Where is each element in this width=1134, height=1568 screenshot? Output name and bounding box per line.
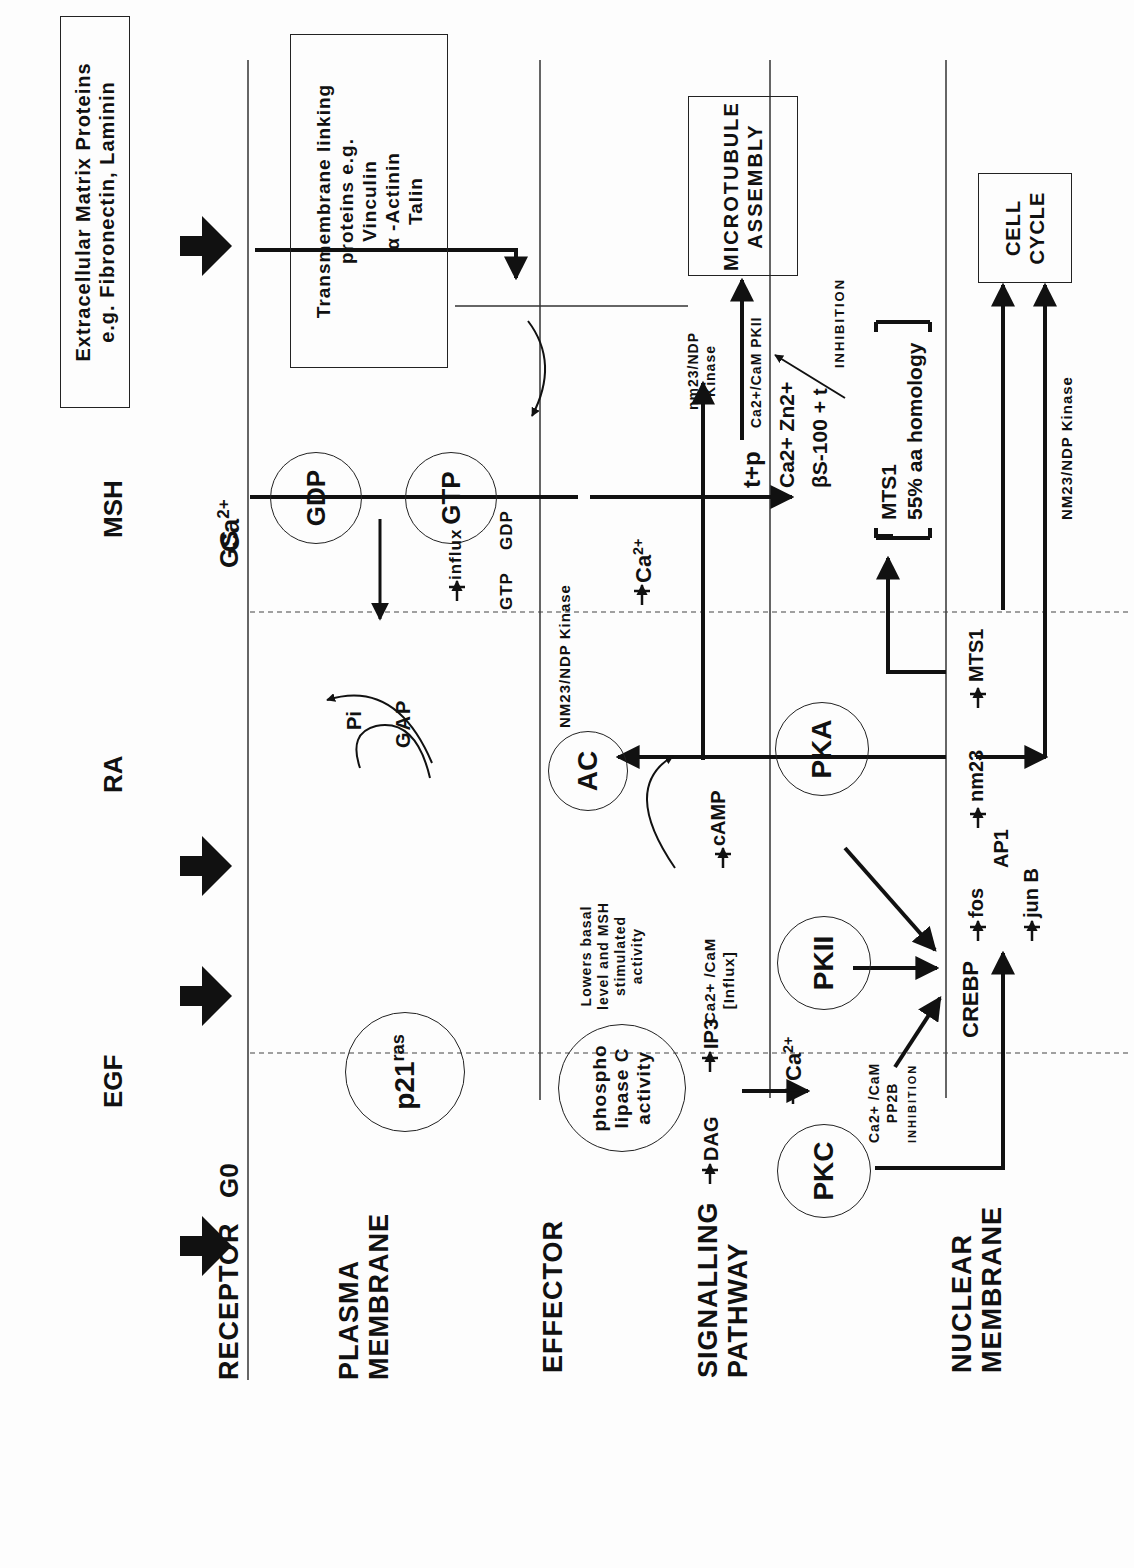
plc-line: activity xyxy=(633,1051,655,1124)
ca-superscript: 2+ xyxy=(214,499,233,518)
ca-effector-label: Ca2+ xyxy=(630,539,657,583)
signalling-diagram: RECEPTOR PLASMA MEMBRANE EFFECTOR SIGNAL… xyxy=(0,0,1134,1568)
microtubule-assembly-box: MICROTUBULE ASSEMBLY xyxy=(688,96,798,276)
ap1-label: AP1 xyxy=(990,829,1013,868)
nm23-ndp-kinase-nuclear-label: NM23/NDP Kinase xyxy=(1058,376,1075,520)
kinase-line: nm23/NDP xyxy=(685,332,702,410)
note-line: Lowers basal xyxy=(578,902,595,1010)
ca-signal-label: Ca2+ xyxy=(780,1037,807,1081)
mts1-label: MTS1 xyxy=(965,629,988,682)
row-label-line: SIGNALLING xyxy=(693,1202,723,1379)
s100-label: βS-100 + t xyxy=(808,388,832,488)
note-line: level and MSH xyxy=(595,902,612,1010)
kinase-line: Kinase xyxy=(702,332,719,410)
t-plus-p-label: t+p xyxy=(738,451,766,488)
g-protein-g0: G0 xyxy=(214,1163,245,1198)
row-label-plasma-membrane: PLASMA MEMBRANE xyxy=(334,1213,394,1380)
label-line: [Influx] xyxy=(719,938,738,1023)
transmembrane-line: Vinculin xyxy=(358,160,381,242)
microtubule-line: MICROTUBULE xyxy=(719,101,743,271)
row-label-receptor: RECEPTOR xyxy=(214,1222,244,1380)
row-label-effector: EFFECTOR xyxy=(538,1220,568,1373)
p21-ras-circle: p21ras xyxy=(345,1012,465,1132)
plc-line: phospho xyxy=(589,1044,611,1131)
g-protein-gs: GS xyxy=(214,530,245,568)
transmembrane-line: proteins e.g. xyxy=(335,138,358,264)
ecm-line: Extracellular Matrix Proteins xyxy=(71,62,95,361)
cell-cycle-line: CELL xyxy=(1001,200,1025,256)
inhibition-label-lower: INHIBITION xyxy=(906,1064,918,1143)
label-line: Ca2+ /CaM xyxy=(700,938,719,1023)
pka-circle: PKA xyxy=(775,702,869,796)
ip3-label: IP3 xyxy=(700,1019,723,1049)
nm23-kinase-small-label: nm23/NDP Kinase xyxy=(685,332,719,410)
pi-label: Pi xyxy=(343,711,366,730)
row-label-line: NUCLEAR xyxy=(947,1206,977,1373)
fos-label: fos xyxy=(965,888,988,918)
mts1-homology-label: MTS1 55% aa homology xyxy=(876,343,928,520)
transmembrane-line: Transmembrane linking xyxy=(312,84,335,318)
nm23-ndp-kinase-label: NM23/NDP Kinase xyxy=(556,584,573,728)
lowers-basal-note: Lowers basal level and MSH stimulated ac… xyxy=(578,902,646,1010)
gap-label: GAP xyxy=(392,699,415,748)
ecm-line: e.g. Fibronectin, Laminin xyxy=(95,81,119,343)
row-label-line: MEMBRANE xyxy=(364,1213,394,1380)
label-line: 55% aa homology xyxy=(902,343,928,520)
nm23-label: nm23 xyxy=(965,750,988,802)
row-label-line: PATHWAY xyxy=(723,1202,753,1379)
transmembrane-line: Talin xyxy=(404,177,427,225)
transmembrane-box: Transmembrane linking proteins e.g. Vinc… xyxy=(290,34,448,368)
influx-label: influx xyxy=(446,529,466,580)
label-line: MTS1 xyxy=(876,343,902,520)
note-line: activity xyxy=(629,902,646,1010)
cell-cycle-line: CYCLE xyxy=(1025,192,1049,265)
jun-b-label: jun B xyxy=(1020,868,1043,918)
p21-text: p21 xyxy=(390,1062,421,1110)
receptor-msh: MSH xyxy=(98,480,129,538)
label-line: PP2B xyxy=(883,1063,901,1143)
plc-line: lipase C xyxy=(611,1048,633,1129)
ca-cam-pp2b-label: Ca2+ /CaM PP2B xyxy=(865,1063,901,1143)
camp-label: cAMP xyxy=(707,790,730,846)
ca-superscript: 2+ xyxy=(780,1037,796,1053)
gdp-small-label: GDP xyxy=(497,510,517,550)
receptor-egf: EGF xyxy=(98,1055,129,1108)
row-label-line: MEMBRANE xyxy=(977,1206,1007,1373)
crebp-label: CREBP xyxy=(958,961,984,1038)
gtp-small-label: GTP xyxy=(497,572,517,610)
label-line: Ca2+ /CaM xyxy=(865,1063,883,1143)
ca-cam-influx-label: Ca2+ /CaM [Influx] xyxy=(700,938,738,1023)
transmembrane-line: α -Actinin xyxy=(381,152,404,250)
ecm-box: Extracellular Matrix Proteins e.g. Fibro… xyxy=(60,16,130,408)
microtubule-line: ASSEMBLY xyxy=(743,123,767,248)
ca-superscript: 2+ xyxy=(630,539,646,555)
ca-zn-label: Ca2+ Zn2+ xyxy=(775,382,799,488)
receptor-arrows xyxy=(180,216,232,1276)
ca-cam-pkii-label: Ca2+/CaM PKII xyxy=(748,317,764,428)
row-label-nuclear-membrane: NUCLEAR MEMBRANE xyxy=(947,1206,1007,1373)
inhibition-label-upper: INHIBITION xyxy=(832,278,847,368)
ras-superscript: ras xyxy=(388,1034,408,1061)
note-line: stimulated xyxy=(612,902,629,1010)
gdp-circle: GDP xyxy=(270,452,362,544)
row-label-signalling-pathway: SIGNALLING PATHWAY xyxy=(693,1202,753,1379)
row-label-line: PLASMA xyxy=(334,1213,364,1380)
pkc-circle: PKC xyxy=(777,1124,871,1218)
ca-text: Ca xyxy=(781,1053,806,1081)
cell-cycle-box: CELL CYCLE xyxy=(978,173,1072,283)
dag-label: DAG xyxy=(700,1117,723,1161)
receptor-ra: RA xyxy=(98,755,129,793)
pkii-circle: PKII xyxy=(777,916,871,1010)
ac-circle: AC xyxy=(548,731,628,811)
phospholipase-c-circle: phospho lipase C activity xyxy=(558,1024,686,1152)
ca-text: Ca xyxy=(631,555,656,583)
